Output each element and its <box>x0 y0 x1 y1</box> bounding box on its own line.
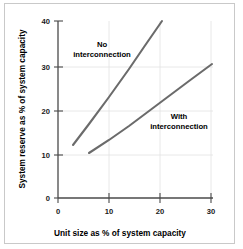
series-line-with-interconnection <box>89 64 212 153</box>
chart-figure: 40 30 20 10 0 0 10 20 30 No interconnect… <box>4 3 235 244</box>
y-axis-title: System reserve as % of system capacity <box>17 29 27 189</box>
y-tick-label-0: 0 <box>46 194 50 203</box>
x-axis-title: Unit size as % of system capacity <box>54 228 186 238</box>
y-tick-label-30: 30 <box>42 63 50 72</box>
series-line-no-interconnection <box>73 21 162 145</box>
series-label-no-interconnection-line1: No <box>97 40 108 49</box>
series-label-no-interconnection-line2: interconnection <box>73 50 131 59</box>
x-tick-label-30: 30 <box>207 207 215 216</box>
line-chart: 40 30 20 10 0 0 10 20 30 No interconnect… <box>5 4 236 245</box>
y-tick-label-20: 20 <box>42 107 50 116</box>
gridlines <box>58 21 213 198</box>
series-label-with-interconnection-line1: With <box>171 112 188 121</box>
y-tick-label-40: 40 <box>42 17 50 26</box>
series-label-with-interconnection-line2: interconnection <box>150 122 208 131</box>
x-tick-label-20: 20 <box>156 207 164 216</box>
x-tick-label-0: 0 <box>56 207 60 216</box>
x-tick-label-10: 10 <box>105 207 113 216</box>
y-tick-label-10: 10 <box>42 151 50 160</box>
